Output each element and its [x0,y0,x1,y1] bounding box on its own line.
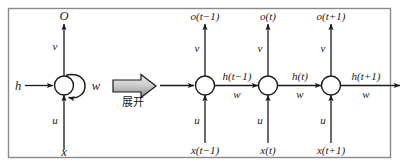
folded-output-label: O [59,9,68,23]
folded-rnn-group: O v u x h w [15,9,101,159]
hidden-node-1 [259,76,278,95]
output-label-2: o(t+1) [317,10,346,23]
folded-recurrent-weight-label: w [92,79,101,93]
output-weight-label-2: v [321,42,326,54]
folded-hidden-input-label: h [15,79,21,93]
unfold-group: 展开 [113,75,156,110]
output-label-0: o(t−1) [191,10,220,23]
timestep-group-1: o(t) v h(t) w u x(t) [257,10,321,157]
timestep-group-0: o(t−1) v h(t−1) w u x(t−1) [190,10,258,157]
folded-input-label: x [60,145,67,159]
timestep-group-2: o(t+1) v h(t+1) w u x(t+1) [316,10,400,157]
hidden-weight-label-2: w [362,88,370,100]
hidden-label-1: h(t) [292,70,308,83]
input-weight-label-2: u [320,114,326,126]
input-label-2: x(t+1) [316,144,346,157]
unfold-label: 展开 [122,96,144,109]
folded-input-weight-label: u [52,114,58,126]
output-label-1: o(t) [260,10,276,23]
hidden-node-2 [322,76,341,95]
unfold-block-arrow [113,75,156,98]
input-weight-label-1: u [257,114,263,126]
input-label-0: x(t−1) [190,144,220,157]
folded-output-weight-label: v [53,40,58,52]
hidden-node-0 [196,76,215,95]
hidden-state-node [55,76,74,95]
output-weight-label-0: v [195,42,200,54]
rnn-unfold-diagram: O v u x h w 展开 o(t−1) v h(t−1) w u x(t−1… [0,0,404,166]
hidden-label-2: h(t+1) [352,70,381,83]
hidden-weight-label-0: w [233,88,241,100]
figure-canvas: O v u x h w 展开 o(t−1) v h(t−1) w u x(t−1… [0,0,404,166]
output-weight-label-1: v [258,42,263,54]
input-label-1: x(t) [259,144,276,157]
hidden-label-0: h(t−1) [223,70,252,83]
hidden-weight-label-1: w [296,88,304,100]
input-weight-label-0: u [194,114,200,126]
